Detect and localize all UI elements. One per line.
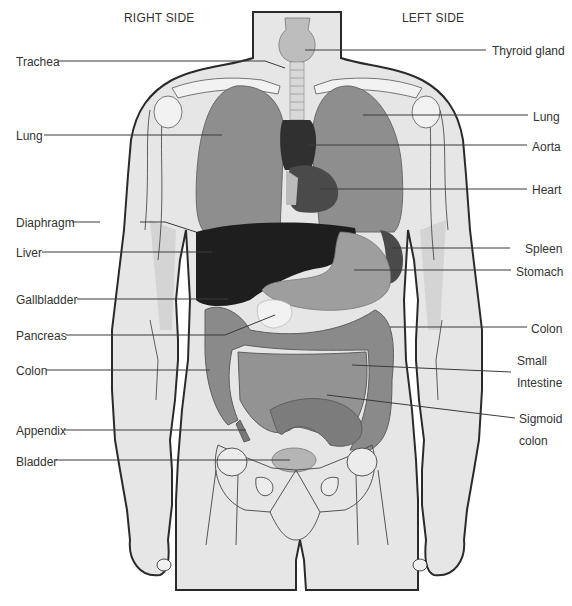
label-pancreas: Pancreas (16, 329, 67, 343)
label-lung-right: Lung (16, 129, 43, 143)
label-bladder: Bladder (16, 455, 57, 469)
label-colon-right: Colon (16, 364, 47, 378)
torso-illustration (0, 0, 572, 606)
anatomy-diagram: RIGHT SIDE LEFT SIDE Trachea Lung Diaphr… (0, 0, 572, 606)
label-diaphragm: Diaphragm (16, 216, 75, 230)
label-heart: Heart (532, 183, 561, 197)
label-gallbladder: Gallbladder (16, 293, 77, 307)
label-spleen: Spleen (525, 242, 562, 256)
label-lung-left: Lung (533, 110, 560, 124)
label-sigmoid-colon: Sigmoid colon (519, 408, 562, 452)
label-small-intestine-line2: Intestine (517, 372, 562, 394)
label-colon-left: Colon (531, 322, 562, 336)
label-sigmoid-colon-line1: Sigmoid (519, 408, 562, 430)
heading-right-side: RIGHT SIDE (124, 11, 194, 25)
label-liver: Liver (16, 246, 42, 260)
heading-left-side: LEFT SIDE (402, 11, 464, 25)
label-small-intestine: Small Intestine (517, 350, 562, 394)
label-sigmoid-colon-line2: colon (519, 430, 562, 452)
label-thyroid-gland: Thyroid gland (492, 44, 565, 58)
label-aorta: Aorta (532, 140, 561, 154)
label-trachea: Trachea (16, 55, 60, 69)
label-small-intestine-line1: Small (517, 350, 562, 372)
label-appendix: Appendix (16, 424, 66, 438)
label-stomach: Stomach (516, 265, 563, 279)
